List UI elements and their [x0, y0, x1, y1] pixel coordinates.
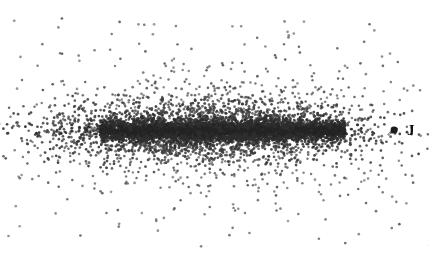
scatter-point-cloud	[0, 0, 429, 256]
jupiter-marker-dot[interactable]	[391, 127, 398, 134]
scatter-plot-figure: J	[0, 0, 429, 256]
jupiter-label: J	[407, 123, 415, 138]
